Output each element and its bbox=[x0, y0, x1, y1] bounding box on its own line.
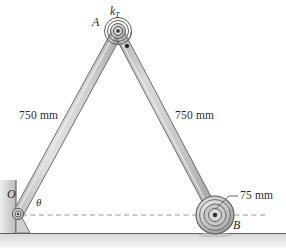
spring-constant-subscript: T bbox=[115, 11, 119, 20]
roller-wheel-B bbox=[196, 196, 234, 238]
right-link bbox=[114, 29, 220, 218]
label-roller-radius: 75 mm bbox=[240, 190, 273, 202]
mechanism-diagram: A kT O B θ 750 mm 750 mm 75 mm bbox=[0, 0, 286, 250]
label-right-link-length: 750 mm bbox=[175, 110, 214, 122]
label-spring-constant: kT bbox=[110, 6, 120, 20]
roller-pin-dot bbox=[213, 213, 217, 217]
label-point-A: A bbox=[92, 16, 99, 28]
apex-pin-dot bbox=[116, 29, 119, 32]
label-point-O: O bbox=[7, 188, 16, 200]
spring-anchor-dot bbox=[125, 44, 129, 48]
pin-joint-O bbox=[12, 208, 23, 219]
label-angle-theta: θ bbox=[36, 197, 41, 208]
label-left-link-length: 750 mm bbox=[19, 110, 58, 122]
label-point-B: B bbox=[233, 219, 240, 231]
left-link bbox=[13, 28, 122, 216]
diagram-canvas bbox=[0, 0, 286, 250]
ground-shading bbox=[0, 234, 286, 248]
